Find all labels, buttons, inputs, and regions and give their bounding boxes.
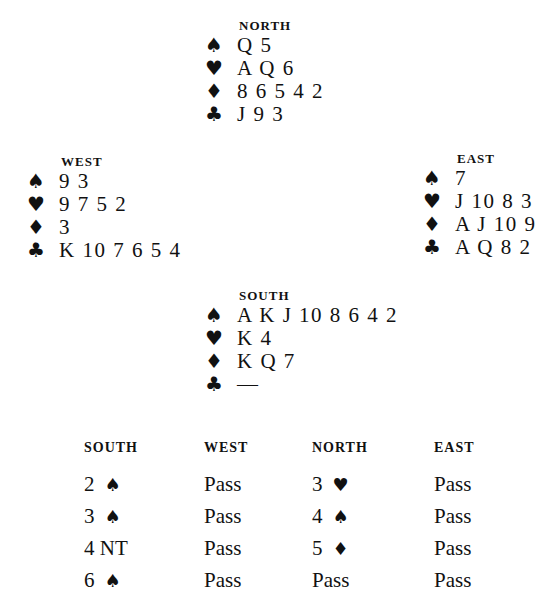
bid: Pass — [204, 532, 312, 564]
south-label: SOUTH — [205, 288, 398, 304]
auction-header-north: NORTH — [312, 440, 434, 468]
north-hearts: ♥A Q 6 — [205, 57, 324, 80]
spade-icon: ♠ — [105, 506, 121, 527]
auction-row: 4 NT Pass 5♦ Pass — [84, 532, 534, 564]
bid: 3♠ — [84, 500, 204, 532]
bid: Pass — [434, 500, 534, 532]
east-hand: EAST ♠7 ♥J 10 8 3 ♦A J 10 9 ♣A Q 8 2 — [423, 151, 536, 259]
bid: Pass — [434, 532, 534, 564]
south-diamonds: ♦K Q 7 — [205, 350, 398, 373]
bid: 5♦ — [312, 532, 434, 564]
heart-icon: ♥ — [27, 193, 59, 216]
diamond-icon: ♦ — [27, 216, 59, 239]
south-clubs: ♣— — [205, 373, 398, 396]
auction-header-row: SOUTH WEST NORTH EAST — [84, 440, 534, 468]
north-label: NORTH — [205, 18, 324, 34]
diamond-icon: ♦ — [423, 213, 455, 236]
bid: 4 NT — [84, 532, 204, 564]
east-diamonds: ♦A J 10 9 — [423, 213, 536, 236]
diamond-icon: ♦ — [205, 350, 237, 373]
auction-table: SOUTH WEST NORTH EAST 2♠ Pass 3♥ Pass 3♠… — [84, 440, 534, 596]
spade-icon: ♠ — [333, 506, 349, 527]
club-icon: ♣ — [423, 236, 455, 259]
club-icon: ♣ — [27, 239, 59, 262]
club-icon: ♣ — [205, 373, 237, 396]
north-spades: ♠Q 5 — [205, 34, 324, 57]
west-hearts: ♥9 7 5 2 — [27, 193, 181, 216]
auction-header-south: SOUTH — [84, 440, 204, 468]
diamond-icon: ♦ — [333, 538, 349, 559]
spade-icon: ♠ — [423, 167, 455, 190]
bid: Pass — [204, 468, 312, 500]
auction-row: 6♠ Pass Pass Pass — [84, 564, 534, 596]
west-label: WEST — [27, 154, 181, 170]
spade-icon: ♠ — [27, 170, 59, 193]
diamond-icon: ♦ — [205, 80, 237, 103]
auction-row: 3♠ Pass 4♠ Pass — [84, 500, 534, 532]
spade-icon: ♠ — [205, 34, 237, 57]
bid: Pass — [204, 500, 312, 532]
spade-icon: ♠ — [105, 570, 121, 591]
spade-icon: ♠ — [205, 304, 237, 327]
south-hearts: ♥K 4 — [205, 327, 398, 350]
east-hearts: ♥J 10 8 3 — [423, 190, 536, 213]
west-clubs: ♣K 10 7 6 5 4 — [27, 239, 181, 262]
bid: Pass — [204, 564, 312, 596]
bid: Pass — [434, 564, 534, 596]
east-clubs: ♣A Q 8 2 — [423, 236, 536, 259]
heart-icon: ♥ — [333, 474, 349, 495]
north-diamonds: ♦8 6 5 4 2 — [205, 80, 324, 103]
east-spades: ♠7 — [423, 167, 536, 190]
bid: 3♥ — [312, 468, 434, 500]
auction-header-east: EAST — [434, 440, 534, 468]
bid: Pass — [434, 468, 534, 500]
spade-icon: ♠ — [105, 474, 121, 495]
club-icon: ♣ — [205, 103, 237, 126]
heart-icon: ♥ — [205, 57, 237, 80]
bid: 4♠ — [312, 500, 434, 532]
bid: Pass — [312, 564, 434, 596]
south-spades: ♠A K J 10 8 6 4 2 — [205, 304, 398, 327]
auction-row: 2♠ Pass 3♥ Pass — [84, 468, 534, 500]
bid: 2♠ — [84, 468, 204, 500]
north-clubs: ♣J 9 3 — [205, 103, 324, 126]
auction-header-west: WEST — [204, 440, 312, 468]
bid: 6♠ — [84, 564, 204, 596]
west-spades: ♠9 3 — [27, 170, 181, 193]
north-hand: NORTH ♠Q 5 ♥A Q 6 ♦8 6 5 4 2 ♣J 9 3 — [205, 18, 324, 126]
heart-icon: ♥ — [205, 327, 237, 350]
east-label: EAST — [423, 151, 536, 167]
west-diamonds: ♦3 — [27, 216, 181, 239]
south-hand: SOUTH ♠A K J 10 8 6 4 2 ♥K 4 ♦K Q 7 ♣— — [205, 288, 398, 396]
heart-icon: ♥ — [423, 190, 455, 213]
west-hand: WEST ♠9 3 ♥9 7 5 2 ♦3 ♣K 10 7 6 5 4 — [27, 154, 181, 262]
